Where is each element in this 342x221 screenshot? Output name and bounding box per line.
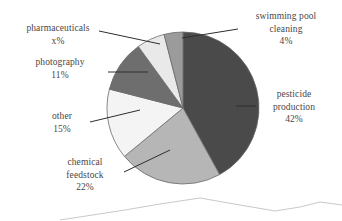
pie-slices-group [107,32,259,184]
pie-chart-figure: pharmaceuticals x% photography 11% other… [0,0,342,221]
slice-label-chemical-feedstock-name2: feedstock [46,169,124,182]
slice-label-swimming-pool-percent: 4% [236,35,336,48]
slice-label-pharmaceuticals-percent: x% [10,35,106,48]
slice-label-other-percent: 15% [36,123,88,136]
slice-label-swimming-pool-name2: cleaning [236,23,336,36]
leader-line-pharmaceuticals [99,31,160,44]
slice-label-chemical-feedstock-percent: 22% [46,181,124,194]
slice-label-chemical-feedstock-name1: chemical [46,156,124,169]
slice-label-other: other 15% [36,110,88,135]
slice-label-pesticide-name1: pesticide [252,88,336,101]
slice-label-pesticide-production: pesticide production 42% [252,88,336,126]
slice-label-pesticide-name2: production [252,101,336,114]
slice-label-chemical-feedstock: chemical feedstock 22% [46,156,124,194]
slice-label-pharmaceuticals-name: pharmaceuticals [10,22,106,35]
slice-label-pharmaceuticals: pharmaceuticals x% [10,22,106,47]
slice-label-other-name: other [36,110,88,123]
slice-label-photography-percent: 11% [14,69,106,82]
slice-label-photography: photography 11% [14,56,106,81]
slice-label-photography-name: photography [14,56,106,69]
slice-label-pesticide-percent: 42% [252,113,336,126]
slice-label-swimming-pool-name1: swimming pool [236,10,336,23]
slice-label-swimming-pool-cleaning: swimming pool cleaning 4% [236,10,336,48]
